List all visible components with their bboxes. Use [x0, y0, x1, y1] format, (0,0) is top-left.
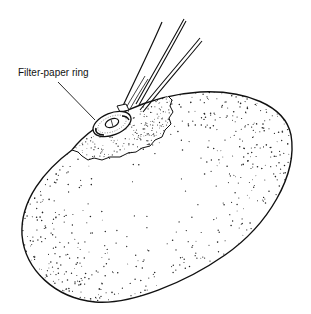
egg-illustration: Filter-paper ring [0, 0, 311, 314]
illustration-canvas [0, 0, 311, 314]
label-leader-line [58, 82, 95, 120]
filter-paper-ring-label: Filter-paper ring [18, 67, 89, 78]
